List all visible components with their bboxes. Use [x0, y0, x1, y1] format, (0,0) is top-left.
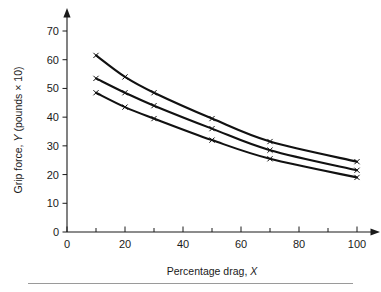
y-tick-label: 70 — [47, 25, 59, 37]
x-tick-label: 0 — [64, 238, 70, 250]
y-tick-label: 20 — [47, 169, 59, 181]
chart-svg: 010203040506070 020406080100 Grip force,… — [0, 0, 381, 292]
x-axis-arrowhead — [371, 228, 381, 235]
x-tick-label: 40 — [177, 238, 189, 250]
data-curves — [96, 55, 357, 177]
y-axis-title: Grip force, Y (pounds × 10) — [12, 67, 24, 194]
x-tick-label: 60 — [235, 238, 247, 250]
x-axis-title: Percentage drag, X — [167, 265, 258, 277]
y-tick-label: 50 — [47, 82, 59, 94]
x-tick-label: 80 — [293, 238, 305, 250]
data-point-marker — [93, 53, 98, 58]
y-tick-label: 10 — [47, 197, 59, 209]
x-tick-label: 20 — [119, 238, 131, 250]
y-tick-label: 0 — [53, 226, 59, 238]
chart-figure: 010203040506070 020406080100 Grip force,… — [0, 0, 381, 292]
x-axis: 020406080100 — [64, 227, 380, 251]
y-axis: 010203040506070 — [47, 8, 71, 238]
x-tick-label: 100 — [348, 238, 366, 250]
y-axis-arrowhead — [63, 8, 70, 18]
data-markers — [93, 53, 359, 180]
y-tick-label: 30 — [47, 140, 59, 152]
y-tick-label: 60 — [47, 54, 59, 66]
y-tick-label: 40 — [47, 111, 59, 123]
